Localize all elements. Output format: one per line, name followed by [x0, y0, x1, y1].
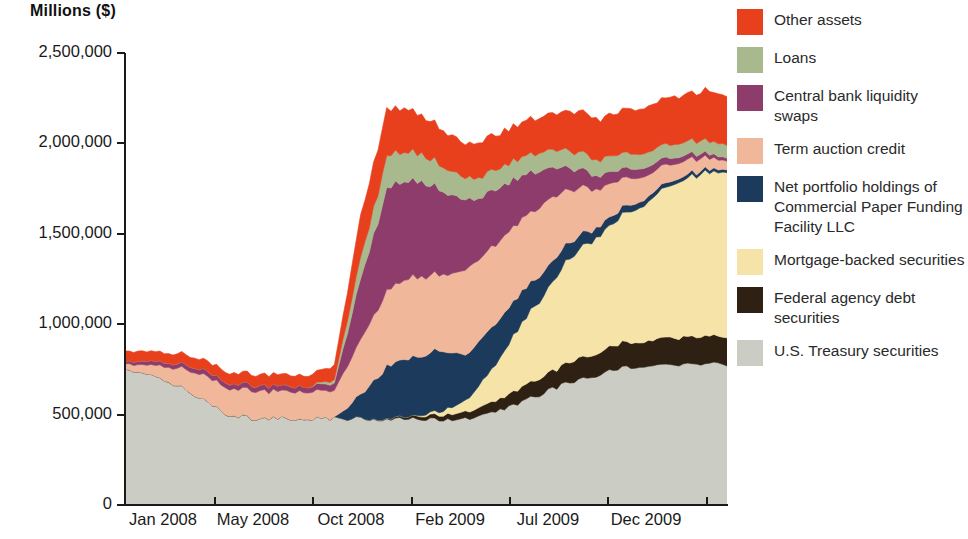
- legend-swatch-icon: [737, 176, 763, 202]
- legend-item-label: Loans: [774, 46, 816, 68]
- plot-area: [125, 53, 727, 505]
- legend-item[interactable]: Net portfolio holdings of Commercial Pap…: [737, 175, 965, 237]
- legend-item-label: Term auction credit: [774, 137, 905, 159]
- legend-item[interactable]: Mortgage-backed securities: [737, 248, 965, 275]
- y-tick-label: 0: [8, 494, 112, 513]
- legend-swatch-icon: [737, 47, 763, 73]
- chart-legend: Other assetsLoansCentral bank liquidity …: [737, 8, 965, 377]
- x-tick-mark: [411, 497, 413, 505]
- stacked-area-svg: [125, 53, 727, 505]
- x-tick-mark: [706, 497, 708, 505]
- x-tick-mark: [607, 497, 609, 505]
- x-tick-label: Oct 2008: [318, 510, 385, 529]
- y-tick-label: 2,000,000: [8, 132, 112, 151]
- y-tick-label: 1,000,000: [8, 313, 112, 332]
- y-axis-line: [124, 53, 126, 506]
- legend-item[interactable]: U.S. Treasury securities: [737, 339, 965, 366]
- y-tick-mark: [117, 142, 125, 144]
- y-axis-title: Millions ($): [30, 2, 116, 20]
- legend-item[interactable]: Federal agency debt securities: [737, 286, 965, 328]
- legend-item-label: U.S. Treasury securities: [774, 339, 939, 361]
- legend-swatch-icon: [737, 138, 763, 164]
- legend-swatch-icon: [737, 340, 763, 366]
- legend-swatch-icon: [737, 85, 763, 111]
- x-tick-label: May 2008: [217, 510, 289, 529]
- legend-item[interactable]: Other assets: [737, 8, 965, 35]
- legend-item[interactable]: Loans: [737, 46, 965, 73]
- x-tick-label: Jan 2008: [129, 510, 197, 529]
- legend-swatch-icon: [737, 287, 763, 313]
- x-tick-mark: [214, 497, 216, 505]
- y-tick-label: 500,000: [8, 404, 112, 423]
- legend-swatch-icon: [737, 249, 763, 275]
- y-tick-mark: [117, 323, 125, 325]
- x-tick-label: Jul 2009: [517, 510, 579, 529]
- legend-item-label: Central bank liquidity swaps: [774, 84, 965, 126]
- x-tick-mark: [312, 497, 314, 505]
- y-tick-mark: [117, 414, 125, 416]
- legend-swatch-icon: [737, 9, 763, 35]
- legend-item-label: Federal agency debt securities: [774, 286, 965, 328]
- legend-item-label: Other assets: [774, 8, 862, 30]
- y-tick-mark: [117, 52, 125, 54]
- x-tick-mark: [509, 497, 511, 505]
- y-tick-label: 1,500,000: [8, 223, 112, 242]
- x-tick-label: Feb 2009: [415, 510, 485, 529]
- asset-composition-area-chart: Millions ($) 2,500,0002,000,0001,500,000…: [0, 0, 968, 539]
- x-tick-label: Dec 2009: [611, 510, 682, 529]
- y-tick-label: 2,500,000: [8, 42, 112, 61]
- legend-item-label: Mortgage-backed securities: [774, 248, 964, 270]
- x-tick-mark: [124, 497, 126, 505]
- legend-item[interactable]: Central bank liquidity swaps: [737, 84, 965, 126]
- legend-item[interactable]: Term auction credit: [737, 137, 965, 164]
- y-tick-mark: [117, 233, 125, 235]
- legend-item-label: Net portfolio holdings of Commercial Pap…: [774, 175, 965, 237]
